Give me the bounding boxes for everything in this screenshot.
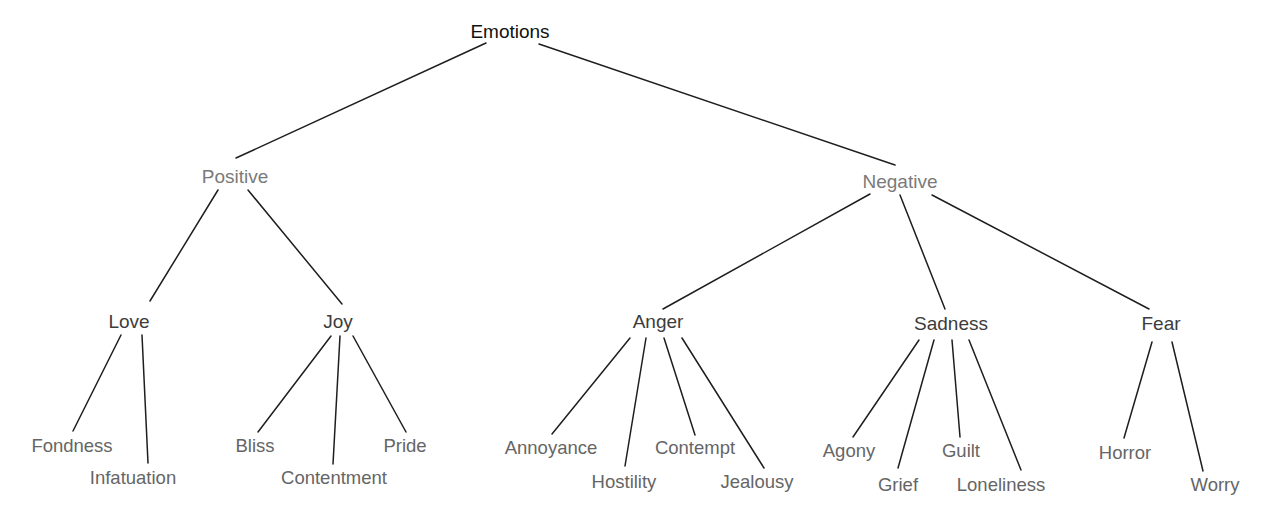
node-contempt: Contempt <box>655 437 735 458</box>
edge-sadness-agony <box>853 340 919 437</box>
edge-joy-contentment <box>333 336 340 464</box>
node-negative: Negative <box>863 171 938 192</box>
node-hostility: Hostility <box>592 471 658 492</box>
edge-love-fondness <box>73 335 121 431</box>
edge-negative-fear <box>932 195 1149 309</box>
edge-sadness-grief <box>898 340 934 468</box>
node-joy: Joy <box>323 311 353 332</box>
edge-negative-anger <box>663 194 870 309</box>
tree-nodes: Emotions Positive Negative Love Joy Ange… <box>31 21 1240 495</box>
edge-fear-worry <box>1172 342 1203 471</box>
node-sadness: Sadness <box>914 313 988 334</box>
node-grief: Grief <box>878 474 919 495</box>
node-fondness: Fondness <box>31 435 112 456</box>
node-annoyance: Annoyance <box>505 437 598 458</box>
node-anger: Anger <box>633 311 684 332</box>
node-contentment: Contentment <box>281 467 387 488</box>
node-fear: Fear <box>1141 313 1181 334</box>
node-pride: Pride <box>383 435 426 456</box>
node-loneliness: Loneliness <box>957 474 1045 495</box>
tree-edges <box>73 43 1203 471</box>
edge-positive-joy <box>248 190 342 304</box>
node-emotions: Emotions <box>470 21 549 42</box>
edge-anger-hostility <box>625 338 646 466</box>
edge-anger-annoyance <box>552 338 630 434</box>
edge-positive-love <box>150 190 218 301</box>
edge-love-infatuation <box>142 335 148 463</box>
node-jealousy: Jealousy <box>720 471 794 492</box>
node-worry: Worry <box>1191 474 1241 495</box>
edge-sadness-guilt <box>952 340 960 437</box>
edge-joy-bliss <box>258 336 331 432</box>
emotions-tree-diagram: Emotions Positive Negative Love Joy Ange… <box>0 0 1274 518</box>
node-infatuation: Infatuation <box>90 467 176 488</box>
edge-emotions-negative <box>539 44 895 165</box>
edge-negative-sadness <box>900 195 945 309</box>
node-agony: Agony <box>823 440 876 461</box>
node-love: Love <box>108 311 149 332</box>
node-horror: Horror <box>1099 442 1151 463</box>
node-guilt: Guilt <box>942 440 980 461</box>
node-bliss: Bliss <box>235 435 274 456</box>
edge-fear-horror <box>1124 342 1152 438</box>
node-positive: Positive <box>202 166 269 187</box>
edge-emotions-positive <box>236 43 486 158</box>
edge-joy-pride <box>353 336 406 432</box>
